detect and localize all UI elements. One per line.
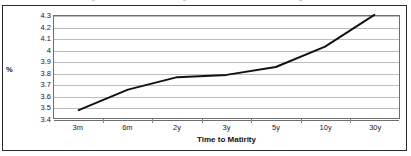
y-tick-label: 4: [47, 47, 51, 55]
y-tick-label: 4.1: [41, 35, 51, 43]
x-tick-label: 5y: [272, 124, 280, 132]
chart-frame: % 4.34.24.143.93.83.73.63.53.4 3m6m2y3y5…: [2, 5, 407, 151]
x-axis-title: Time to Matirity: [53, 136, 400, 144]
y-tick-label: 4.2: [41, 24, 51, 32]
plot-area: [53, 15, 400, 119]
x-tick-mark: [103, 119, 104, 123]
y-axis-title: %: [6, 66, 13, 74]
x-axis-tick-labels: 3m6m2y3y5y10y30y: [53, 124, 400, 135]
x-tick-label: 6m: [122, 124, 132, 132]
x-tick-mark: [152, 119, 153, 123]
scan-speck: [92, 0, 95, 1]
x-tick-label: 30y: [369, 124, 381, 132]
y-tick-label: 3.4: [41, 116, 51, 124]
scan-speck: [183, 0, 186, 1]
y-tick-label: 3.7: [41, 82, 51, 90]
x-tick-mark: [350, 119, 351, 123]
y-tick-label: 3.9: [41, 58, 51, 66]
y-tick-label: 3.8: [41, 70, 51, 78]
y-tick-label: 4.3: [41, 12, 51, 20]
scan-speck: [299, 0, 302, 1]
x-tick-label: 3m: [73, 124, 83, 132]
y-axis-tick-labels: 4.34.24.143.93.83.73.63.53.4: [17, 15, 51, 119]
x-tick-label: 10y: [320, 124, 332, 132]
x-tick-mark: [301, 119, 302, 123]
series-line-yield: [79, 15, 375, 110]
series-layer: [54, 16, 399, 118]
x-tick-mark: [251, 119, 252, 123]
y-tick-label: 3.6: [41, 93, 51, 101]
x-tick-mark: [202, 119, 203, 123]
x-tick-label: 2y: [173, 124, 181, 132]
x-tick-label: 3y: [223, 124, 231, 132]
y-tick-label: 3.5: [41, 105, 51, 113]
